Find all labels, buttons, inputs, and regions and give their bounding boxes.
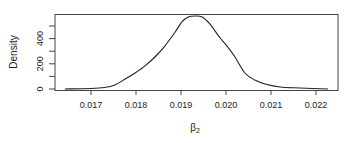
x-axis: 0.0170.0180.0190.0200.0210.022 [80,91,328,111]
x-tick-label: 0.018 [125,100,148,110]
x-tick-label: 0.022 [305,100,328,110]
x-tick-label: 0.019 [170,100,193,110]
y-axis-title: Density [8,35,19,68]
x-axis-title: β2 [190,122,200,134]
density-chart: 0.0170.0180.0190.0200.0210.022 0200400 β… [0,0,350,143]
x-tick-label: 0.021 [260,100,283,110]
x-tick-label: 0.020 [215,100,238,110]
y-tick-label: 0 [35,86,45,91]
x-tick-label: 0.017 [80,100,103,110]
y-axis: 0200400 [35,26,55,92]
y-tick-label: 400 [35,31,45,46]
density-curve [65,16,328,89]
plot-frame [55,15,338,91]
y-tick-label: 200 [35,56,45,71]
